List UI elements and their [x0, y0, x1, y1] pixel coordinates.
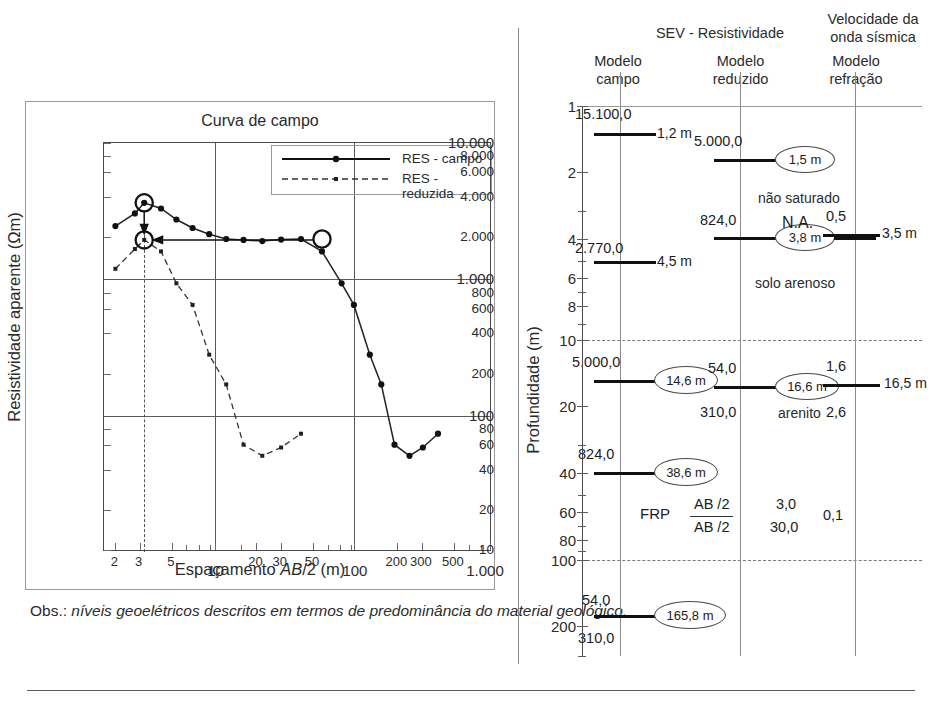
geology-label-na: N.A. [782, 214, 813, 232]
ytick-2000 [104, 237, 111, 238]
group-header-seismic-line1: Velocidade da [803, 10, 942, 28]
ytick-600 [104, 309, 111, 310]
depth-label-80: 80 [540, 532, 576, 549]
column-title-reduzido-l1: Modelo [683, 52, 798, 70]
ytick-40 [104, 470, 111, 471]
xtick-200 [397, 543, 398, 550]
column-title-refracao-l2: refração [801, 70, 911, 88]
annotation-arrow-down [141, 212, 148, 234]
campo-res-6: 310,0 [578, 630, 614, 646]
ytick-8000 [104, 156, 111, 157]
refracao-bar-2 [823, 384, 880, 387]
xtick-60 [328, 545, 329, 550]
series-res-reduzida-markers [113, 238, 303, 458]
depth-label-60: 60 [540, 504, 576, 521]
series-res-reduzida-line [115, 240, 301, 456]
ytick-80 [104, 429, 111, 430]
depth-axis-line [582, 106, 583, 656]
xtick-2 [115, 543, 116, 550]
frp-fraction-denominator: AB /2 [690, 517, 733, 538]
depth-tick-60 [577, 512, 588, 513]
depth-tick-20 [577, 406, 588, 407]
column-title-campo-l2: campo [563, 70, 673, 88]
ytick-800 [104, 293, 111, 294]
dashed-depth-10 [582, 340, 922, 341]
ytick-6000 [104, 172, 111, 173]
depth-tick-9 [578, 324, 586, 325]
ytick-10 [104, 550, 111, 551]
ytick-label-8000: 8.000 [424, 148, 494, 163]
xtick-30 [281, 543, 282, 550]
depth-tick-90 [578, 551, 586, 552]
depth-tick-2 [577, 172, 588, 173]
reduzido-res-1: 5.000,0 [694, 133, 742, 149]
ytick-label-2000: 2.000 [424, 229, 494, 244]
column-line-refracao [855, 72, 856, 656]
ytick-label-6000: 6.000 [424, 164, 494, 179]
depth-tick-end [578, 656, 586, 657]
depth-tick-10 [577, 340, 588, 341]
x-axis-label-post: /2 (m) [302, 560, 345, 578]
x-axis-label: Espaçamento AB/2 (m) [26, 560, 494, 579]
depth-label-4: 4 [548, 231, 576, 248]
dashed-depth-100 [582, 560, 922, 561]
campo-depth-4: 38,6 m [654, 458, 718, 486]
xtick-50 [313, 543, 314, 550]
ytick-label-200: 200 [424, 365, 494, 380]
frp-value-top: 3,0 [776, 496, 796, 512]
ytick-label-80: 80 [424, 420, 494, 435]
depth-label-2: 2 [548, 164, 576, 181]
ytick-label-40: 40 [424, 461, 494, 476]
x-axis-label-ab: AB [280, 560, 302, 578]
frp-label: FRP [640, 505, 670, 522]
chart-series-svg [104, 143, 490, 550]
ytick-label-800: 800 [424, 284, 494, 299]
depth-tick-5 [578, 261, 586, 262]
depth-label-6: 6 [548, 270, 576, 287]
depth-tick-70 [578, 526, 586, 527]
depth-tick-30 [578, 445, 586, 446]
depth-tick-6 [577, 278, 588, 279]
campo-depth-5: 165,8 m [654, 601, 726, 629]
ytick-4000 [104, 197, 111, 198]
frp-fraction: AB /2 AB /2 [690, 495, 733, 537]
frp-value-bottom: 30,0 [770, 519, 798, 535]
depth-label-1: 1 [548, 98, 576, 115]
top-depth-rule [582, 106, 922, 107]
column-title-refracao-l1: Modelo [801, 52, 911, 70]
depth-tick-1 [577, 106, 588, 107]
ytick-label-4000: 4.000 [424, 188, 494, 203]
geology-label-arenito: arenito [778, 405, 821, 421]
xtick-5 [172, 543, 173, 550]
refracao-depth-2: 16,5 m [884, 375, 927, 391]
depth-label-200: 200 [530, 618, 576, 635]
xtick-70 [340, 545, 341, 550]
field-curve-chart-panel: Curva de campo Resistividade aparente (Ω… [25, 101, 495, 590]
campo-bar-5 [594, 615, 656, 618]
y-axis-label: Resistividade aparente (Ωm) [5, 212, 24, 422]
depth-tick-4 [577, 239, 588, 240]
depth-tick-7 [578, 292, 586, 293]
campo-res-3: 5.000,0 [572, 354, 620, 370]
frp-value-right: 0,1 [823, 507, 843, 523]
campo-bar-2 [594, 261, 656, 264]
xtick-100 [354, 543, 355, 550]
group-header-seismic-line2: onda sísmica [803, 28, 942, 46]
xtick-20 [256, 543, 257, 550]
depth-label-20: 20 [540, 398, 576, 415]
depth-label-10: 10 [540, 332, 576, 349]
depth-label-8: 8 [548, 298, 576, 315]
xtick-80 [351, 545, 352, 550]
campo-bar-1 [594, 133, 656, 136]
ytick-label-20: 20 [424, 501, 494, 516]
ytick-200 [104, 374, 111, 375]
depth-tick-8 [577, 306, 588, 307]
column-title-campo: Modelo campo [563, 52, 673, 88]
reduzido-bar-2 [714, 237, 776, 240]
ytick-20 [104, 510, 111, 511]
refracao-bar-1 [823, 234, 880, 237]
reduzido-bar-1 [714, 159, 776, 162]
group-header-sev: SEV - Resistividade [610, 24, 830, 42]
campo-depth-1: 1,2 m [657, 125, 692, 141]
depth-label-100: 100 [530, 552, 576, 569]
